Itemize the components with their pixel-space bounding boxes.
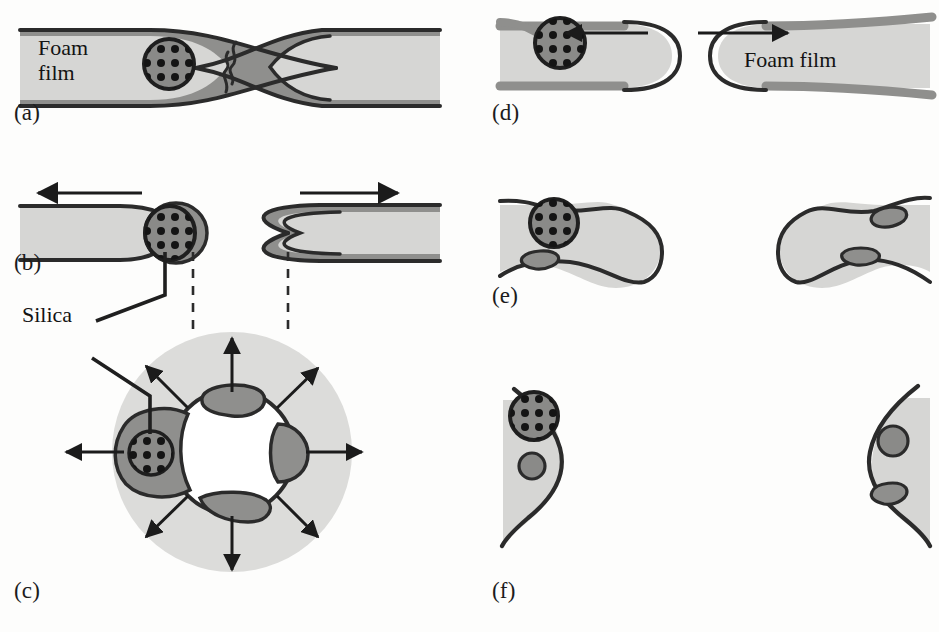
diagram-canvas (0, 0, 939, 632)
panel-d-graphic (500, 17, 932, 95)
panel-c-graphic (66, 332, 362, 572)
lens-e-right-bottom (842, 248, 880, 265)
silica-particle-e (530, 199, 578, 247)
silica-particle-c (129, 431, 173, 475)
lens-f-left (519, 453, 545, 479)
lens-e-right-top (871, 207, 907, 227)
panel-label-f: (f) (492, 578, 516, 604)
panel-label-e: (e) (492, 283, 518, 309)
figure-root: Foam film Silica Foam film (a) (b) (c) (… (0, 0, 939, 632)
lens-f-right-bottom (871, 483, 907, 504)
panel-e-graphic (500, 198, 930, 288)
foam-film-label-d: Foam film (744, 48, 836, 73)
silica-label: Silica (22, 303, 72, 328)
lens-f-right-top (878, 426, 908, 456)
panel-label-c: (c) (14, 578, 40, 604)
foam-film-label-a-line1: Foam (38, 36, 88, 61)
panel-label-d: (d) (492, 100, 519, 126)
foam-film-label-a-line2: film (38, 61, 88, 86)
foam-film-label-a: Foam film (38, 36, 88, 85)
silica-particle-b (144, 205, 196, 261)
silica-particle-d (535, 18, 585, 68)
panel-label-a: (a) (14, 100, 40, 126)
panel-f-graphic (502, 386, 930, 546)
silica-particle-f (510, 392, 558, 440)
panel-b-graphic (20, 193, 440, 332)
panel-f-film-right (872, 398, 930, 542)
panel-label-b: (b) (14, 250, 41, 276)
silica-leader-b (96, 252, 165, 321)
silica-particle-a (144, 39, 194, 89)
lens-e-left (521, 251, 558, 269)
